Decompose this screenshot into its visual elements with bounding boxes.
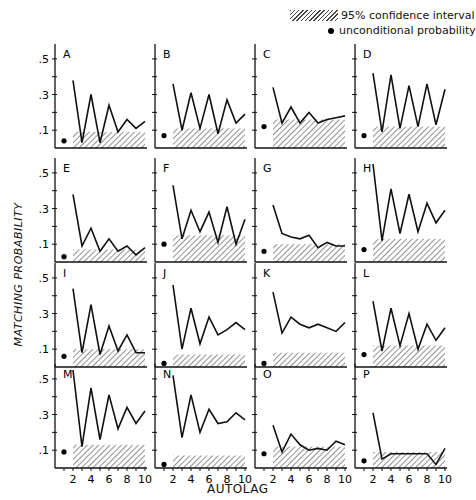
legend-uncond-label: unconditional probability xyxy=(339,23,476,38)
ci-band xyxy=(173,456,245,468)
ci-band xyxy=(273,119,345,148)
panel-label: F xyxy=(163,162,169,175)
hatch-swatch-icon xyxy=(290,10,338,21)
svg-text:.3: .3 xyxy=(39,89,50,102)
svg-text:.1: .1 xyxy=(39,124,50,137)
svg-text:6: 6 xyxy=(306,473,313,486)
panel-e: .1.3.5E xyxy=(39,158,148,262)
matching-line xyxy=(73,370,145,447)
uncond-dot xyxy=(161,242,166,247)
matching-line xyxy=(373,73,445,132)
panel-label: O xyxy=(263,368,272,381)
svg-text:2: 2 xyxy=(370,473,377,486)
panel-grid: .1.3.5ABCD.1.3.5EFGH.1.3.5IJKL246810.1.3… xyxy=(39,44,453,486)
matching-line xyxy=(273,87,345,123)
panel-label: K xyxy=(263,267,271,280)
uncond-dot xyxy=(261,124,266,129)
svg-text:2: 2 xyxy=(270,473,277,486)
uncond-dot xyxy=(361,133,366,138)
panel-label: H xyxy=(363,162,371,175)
ci-band xyxy=(373,239,445,262)
legend-uncond: unconditional probability xyxy=(290,23,476,38)
svg-text:8: 8 xyxy=(424,473,431,486)
matching-line xyxy=(273,205,345,248)
panel-p: 246810P xyxy=(352,364,452,486)
uncond-dot xyxy=(61,254,66,259)
panel-label: N xyxy=(163,368,171,381)
panel-label: J xyxy=(162,267,166,280)
svg-text:4: 4 xyxy=(188,473,195,486)
uncond-dot xyxy=(261,249,266,254)
panel-a: .1.3.5A xyxy=(39,44,148,148)
ci-band xyxy=(73,445,145,468)
svg-text:.3: .3 xyxy=(39,308,50,321)
panel-f: F xyxy=(152,158,247,262)
svg-text:8: 8 xyxy=(324,473,331,486)
svg-text:.1: .1 xyxy=(39,444,50,457)
panel-label: A xyxy=(63,48,71,61)
svg-text:6: 6 xyxy=(106,473,113,486)
panel-label: P xyxy=(363,368,370,381)
x-axis-label: AUTOLAG xyxy=(207,482,269,496)
svg-text:2: 2 xyxy=(170,473,177,486)
panel-h: H xyxy=(352,158,447,262)
matching-line xyxy=(73,289,145,355)
svg-text:10: 10 xyxy=(338,473,352,486)
dot-marker-icon xyxy=(328,28,334,34)
panel-d: D xyxy=(352,44,447,148)
panel-label: L xyxy=(363,267,370,280)
uncond-dot xyxy=(161,462,166,467)
svg-text:8: 8 xyxy=(124,473,131,486)
ci-band xyxy=(273,353,345,367)
ci-band xyxy=(173,355,245,367)
uncond-dot xyxy=(261,361,266,366)
uncond-dot xyxy=(361,247,366,252)
ci-band xyxy=(173,128,245,148)
panel-label: I xyxy=(63,267,66,280)
svg-text:.3: .3 xyxy=(39,409,50,422)
panel-j: J xyxy=(152,263,247,367)
y-axis-label: MATCHING PROBABILITY xyxy=(12,195,25,355)
legend-ci: 95% confidence interval xyxy=(290,8,476,23)
svg-text:.3: .3 xyxy=(39,203,50,216)
legend: 95% confidence interval unconditional pr… xyxy=(290,8,476,38)
ci-band xyxy=(273,244,345,262)
panel-label: D xyxy=(363,48,371,61)
panel-label: E xyxy=(63,162,70,175)
ci-band xyxy=(73,349,145,367)
svg-text:.1: .1 xyxy=(39,238,50,251)
panel-n: 246810N xyxy=(152,364,252,486)
ci-band xyxy=(73,250,145,262)
svg-text:4: 4 xyxy=(88,473,95,486)
matching-line xyxy=(173,84,245,134)
svg-text:.5: .5 xyxy=(39,53,50,66)
matching-line xyxy=(173,285,245,349)
uncond-dot xyxy=(261,451,266,456)
uncond-dot xyxy=(161,361,166,366)
matching-line xyxy=(373,301,445,351)
uncond-dot xyxy=(61,354,66,359)
svg-text:.5: .5 xyxy=(39,373,50,386)
svg-text:2: 2 xyxy=(70,473,77,486)
panel-o: 246810O xyxy=(252,364,352,486)
panel-label: G xyxy=(263,162,272,175)
uncond-dot xyxy=(61,449,66,454)
legend-ci-label: 95% confidence interval xyxy=(341,8,475,23)
matching-line xyxy=(73,194,145,255)
panel-g: G xyxy=(252,158,347,262)
ci-band xyxy=(373,127,445,148)
panel-c: C xyxy=(252,44,347,148)
svg-text:4: 4 xyxy=(288,473,295,486)
panel-i: .1.3.5I xyxy=(39,263,148,367)
panel-b: B xyxy=(152,44,247,148)
uncond-dot xyxy=(361,352,366,357)
matching-line xyxy=(173,375,245,437)
panel-label: C xyxy=(263,48,271,61)
svg-text:.5: .5 xyxy=(39,167,50,180)
uncond-dot xyxy=(61,138,66,143)
ci-band xyxy=(373,346,445,367)
svg-text:10: 10 xyxy=(138,473,152,486)
svg-text:6: 6 xyxy=(406,473,413,486)
svg-text:4: 4 xyxy=(388,473,395,486)
